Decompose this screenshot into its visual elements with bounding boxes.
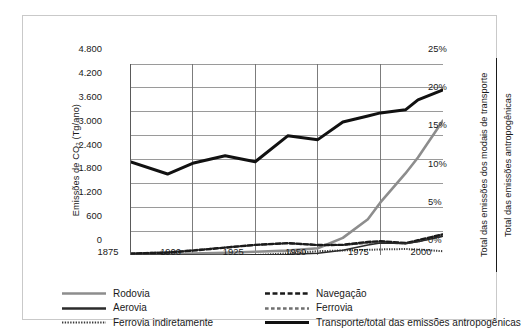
y-axis-right-tick-label: 25% bbox=[428, 44, 462, 53]
y-axis-right-tick-label: 10% bbox=[428, 159, 462, 168]
y-axis-left-tick-label: 4.200 bbox=[46, 68, 102, 77]
legend-entry[interactable]: Navegação bbox=[264, 287, 367, 300]
y-axis-right-tick-label: 20% bbox=[428, 82, 462, 91]
y-axis-left-tick-label: 2.400 bbox=[46, 140, 102, 149]
y-axis-right-title: Total das emissões dos modais de transpo… bbox=[475, 52, 519, 278]
legend-label: Ferrovia indiretamente bbox=[113, 318, 213, 328]
y-axis-right-denominator: Total das emissões antropogênicas bbox=[499, 52, 519, 278]
legend-entry[interactable]: Ferrovia indiretamente bbox=[61, 316, 213, 329]
legend-entry[interactable]: Transporte/total das emissões antropogên… bbox=[264, 316, 521, 329]
x-axis-tick-label: 1950 bbox=[274, 247, 318, 256]
x-axis-tick-label: 1875 bbox=[86, 247, 130, 256]
chart-plot-svg bbox=[130, 64, 443, 255]
y-axis-right-fraction: Total das emissões dos modais de transpo… bbox=[475, 52, 519, 278]
legend-entry[interactable]: Ferrovia bbox=[264, 302, 353, 315]
legend-entry[interactable]: Rodovia bbox=[61, 287, 150, 300]
gridlines bbox=[130, 64, 443, 255]
legend-line-swatch bbox=[264, 303, 310, 314]
x-axis-tick-label: 1900 bbox=[149, 247, 193, 256]
x-axis-tick-label: 1925 bbox=[211, 247, 255, 256]
y-axis-right-numerator: Total das emissões dos modais de transpo… bbox=[475, 52, 495, 278]
legend-label: Rodovia bbox=[113, 289, 150, 299]
legend-line-swatch bbox=[264, 317, 310, 328]
x-axis-tick-label: 1975 bbox=[336, 247, 380, 256]
legend-line-swatch bbox=[61, 288, 107, 299]
series-line-transporte-total-das-emiss-es-antropog-nicas bbox=[130, 90, 443, 174]
y-axis-left-tick-label: 3.000 bbox=[46, 116, 102, 125]
legend-label: Navegação bbox=[316, 289, 367, 299]
legend-label: Ferrovia bbox=[316, 303, 353, 313]
chart-legend: RodoviaNavegaçãoAeroviaFerroviaFerrovia … bbox=[61, 287, 501, 329]
legend-label: Aerovia bbox=[113, 303, 147, 313]
y-axis-left-tick-label: 4.800 bbox=[46, 44, 102, 53]
y-axis-right-tick-label: 0% bbox=[428, 235, 462, 244]
legend-line-swatch bbox=[61, 303, 107, 314]
y-axis-left-tick-label: 3.600 bbox=[46, 92, 102, 101]
series-line-rodovia bbox=[130, 121, 443, 255]
chart-frame: Emissões de CO₂ (Tg/ano) Total das emiss… bbox=[22, 15, 497, 320]
legend-label: Transporte/total das emissões antropogên… bbox=[316, 318, 521, 328]
fraction-bar bbox=[496, 58, 497, 272]
y-axis-left-tick-label: 1.800 bbox=[46, 163, 102, 172]
data-series-layer bbox=[130, 90, 443, 255]
x-axis-tick-label: 2000 bbox=[399, 247, 443, 256]
legend-entry[interactable]: Aerovia bbox=[61, 302, 147, 315]
y-axis-right-tick-label: 15% bbox=[428, 120, 462, 129]
plot-area bbox=[130, 64, 443, 255]
y-axis-right-tick-label: 5% bbox=[428, 197, 462, 206]
legend-line-swatch bbox=[264, 288, 310, 299]
y-axis-left-tick-label: 1.200 bbox=[46, 187, 102, 196]
legend-line-swatch bbox=[61, 317, 107, 328]
y-axis-left-tick-label: 0 bbox=[46, 235, 102, 244]
y-axis-left-tick-label: 600 bbox=[46, 211, 102, 220]
